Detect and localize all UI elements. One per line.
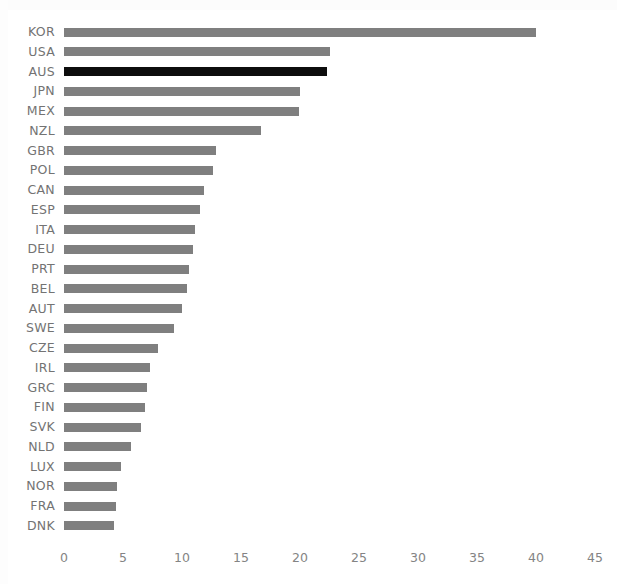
bar-prt: [64, 265, 189, 274]
x-tick-label: 10: [174, 548, 190, 568]
bar-gbr: [64, 146, 216, 155]
x-tick-label: 15: [233, 548, 249, 568]
bar-svk: [64, 423, 141, 432]
bar-category-label: LUX: [0, 457, 55, 477]
bar-category-label: CZE: [0, 338, 55, 358]
bar-row: CZE: [0, 338, 617, 358]
bar-category-label: NZL: [0, 121, 55, 141]
bar-category-label: AUS: [0, 62, 55, 82]
x-tick-label: 35: [469, 548, 485, 568]
bar-category-label: ITA: [0, 220, 55, 240]
bar-category-label: KOR: [0, 22, 55, 42]
bar-row: BEL: [0, 279, 617, 299]
bar-usa: [64, 47, 330, 56]
x-tick-label: 5: [119, 548, 127, 568]
bar-row: DEU: [0, 239, 617, 259]
bar-category-label: SWE: [0, 318, 55, 338]
bar-fin: [64, 403, 145, 412]
bar-row: AUT: [0, 299, 617, 319]
bar-row: IRL: [0, 358, 617, 378]
bar-row: FRA: [0, 496, 617, 516]
bar-row: GBR: [0, 141, 617, 161]
x-tick-label: 25: [351, 548, 367, 568]
bar-row: GRC: [0, 378, 617, 398]
bar-row: KOR: [0, 22, 617, 42]
bar-esp: [64, 205, 200, 214]
bar-row: PRT: [0, 259, 617, 279]
bar-row: POL: [0, 160, 617, 180]
bar-kor: [64, 28, 536, 37]
bar-row: USA: [0, 42, 617, 62]
bar-category-label: GRC: [0, 378, 55, 398]
bar-lux: [64, 462, 121, 471]
bar-fra: [64, 502, 116, 511]
bar-bel: [64, 284, 187, 293]
bar-mex: [64, 107, 299, 116]
bar-category-label: CAN: [0, 180, 55, 200]
bar-row: JPN: [0, 81, 617, 101]
bar-aus: [64, 67, 327, 76]
bar-category-label: JPN: [0, 81, 55, 101]
bar-nor: [64, 482, 117, 491]
bar-row: AUS: [0, 62, 617, 82]
x-tick-label: 40: [528, 548, 544, 568]
bar-nld: [64, 442, 131, 451]
bar-jpn: [64, 87, 300, 96]
bar-category-label: DNK: [0, 516, 55, 536]
bar-row: LUX: [0, 457, 617, 477]
bar-row: NZL: [0, 121, 617, 141]
bar-aut: [64, 304, 182, 313]
bar-category-label: USA: [0, 42, 55, 62]
x-tick-label: 30: [410, 548, 426, 568]
bar-category-label: SVK: [0, 417, 55, 437]
bar-category-label: MEX: [0, 101, 55, 121]
bar-category-label: IRL: [0, 358, 55, 378]
bar-category-label: FRA: [0, 496, 55, 516]
bar-category-label: FIN: [0, 397, 55, 417]
bar-cze: [64, 344, 158, 353]
bar-row: CAN: [0, 180, 617, 200]
bar-deu: [64, 245, 193, 254]
bar-dnk: [64, 521, 114, 530]
bar-row: ESP: [0, 200, 617, 220]
bar-nzl: [64, 126, 261, 135]
bar-row: MEX: [0, 101, 617, 121]
bar-can: [64, 186, 204, 195]
bar-category-label: NOR: [0, 476, 55, 496]
bar-row: SWE: [0, 318, 617, 338]
bar-category-label: POL: [0, 160, 55, 180]
x-tick-label: 20: [292, 548, 308, 568]
bar-irl: [64, 363, 150, 372]
plot-area: KORUSAAUSJPNMEXNZLGBRPOLCANESPITADEUPRTB…: [0, 0, 617, 584]
bar-category-label: AUT: [0, 299, 55, 319]
bar-pol: [64, 166, 213, 175]
bar-category-label: GBR: [0, 141, 55, 161]
bar-category-label: DEU: [0, 239, 55, 259]
bar-row: NOR: [0, 476, 617, 496]
bar-row: FIN: [0, 397, 617, 417]
bar-category-label: NLD: [0, 437, 55, 457]
bar-row: DNK: [0, 516, 617, 536]
x-axis: 051015202530354045: [0, 548, 617, 572]
bar-category-label: BEL: [0, 279, 55, 299]
bar-swe: [64, 324, 174, 333]
bar-row: ITA: [0, 220, 617, 240]
x-tick-label: 45: [587, 548, 603, 568]
bar-ita: [64, 225, 195, 234]
bar-row: SVK: [0, 417, 617, 437]
bar-row: NLD: [0, 437, 617, 457]
bar-category-label: PRT: [0, 259, 55, 279]
bar-grc: [64, 383, 147, 392]
x-tick-label: 0: [60, 548, 68, 568]
bar-chart: KORUSAAUSJPNMEXNZLGBRPOLCANESPITADEUPRTB…: [0, 0, 617, 584]
bar-category-label: ESP: [0, 200, 55, 220]
